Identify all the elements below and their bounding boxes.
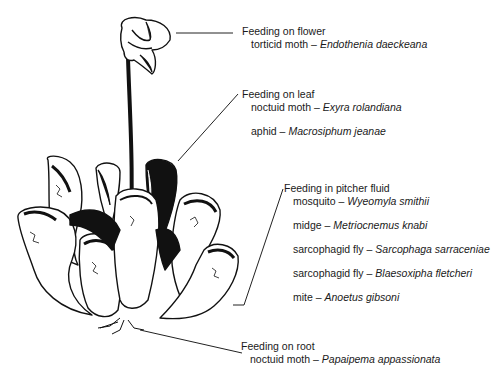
organism-entry: mosquito – Wyeomyla smithii: [284, 195, 490, 208]
organism-entry: torticid moth – Endothenia daeckeana: [242, 38, 427, 51]
organism-entry: sarcophagid fly – Sarcophaga sarraceniae: [284, 243, 490, 256]
roots: [98, 318, 144, 334]
organism-entry: sarcophagid fly – Blaesoxipha fletcheri: [284, 267, 490, 280]
group-heading: Feeding on leaf: [242, 88, 402, 101]
organism-entry: midge – Metriocnemus knabi: [284, 219, 490, 232]
pitcher-leaves: [18, 156, 238, 319]
organism-entry: aphid – Macrosiphum jeanae: [242, 125, 402, 138]
leader-line-root: [140, 330, 242, 353]
organism-entry: noctuid moth – Papaipema appassionata: [241, 353, 440, 366]
annotation-root: Feeding on root noctuid moth – Papaipema…: [241, 340, 440, 366]
group-heading: Feeding in pitcher fluid: [284, 182, 490, 195]
leader-line-pitcher-fluid: [233, 189, 283, 305]
leader-line-leaf: [178, 94, 238, 161]
annotation-flower: Feeding on flower torticid moth – Endoth…: [242, 25, 427, 51]
annotation-pitcher-fluid: Feeding in pitcher fluid mosquito – Wyeo…: [284, 182, 490, 304]
group-heading: Feeding on root: [241, 340, 440, 353]
group-heading: Feeding on flower: [242, 25, 427, 38]
organism-entry: mite – Anoetus gibsoni: [284, 291, 490, 304]
organism-entry: noctuid moth – Exyra rolandiana: [242, 101, 402, 114]
annotation-leaf: Feeding on leaf noctuid moth – Exyra rol…: [242, 88, 402, 138]
